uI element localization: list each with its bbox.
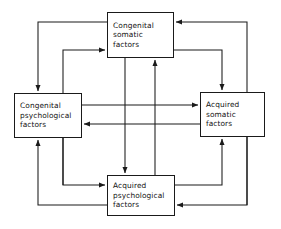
node-label-line: psychological — [20, 111, 71, 121]
edge-acquired-psychological-to-acquired-somatic — [175, 139, 222, 185]
node-label-line: psychological — [113, 191, 164, 201]
node-label-line: factors — [113, 200, 139, 210]
edge-congenital-somatic-to-acquired-somatic — [174, 50, 222, 90]
edge-congenital-somatic-to-congenital-psychological — [38, 22, 107, 91]
edge-acquired-psychological-to-congenital-psychological — [38, 140, 107, 205]
edge-congenital-psychological-to-acquired-psychological — [63, 138, 105, 185]
node-label-line: factors — [113, 40, 139, 50]
node-label-line: factors — [206, 119, 232, 129]
edge-acquired-somatic-to-acquired-psychological — [177, 137, 247, 205]
node-acquired-somatic[interactable]: Acquired somatic factors — [200, 92, 265, 137]
node-congenital-somatic[interactable]: Congenital somatic factors — [107, 12, 174, 58]
node-label-line: factors — [20, 120, 46, 130]
diagram-canvas: Congenital somatic factors Congenital ps… — [0, 0, 281, 229]
node-label-line: somatic — [113, 30, 143, 40]
node-label-line: Acquired — [113, 181, 146, 191]
node-label-line: Congenital — [113, 21, 154, 31]
node-acquired-psychological[interactable]: Acquired psychological factors — [107, 175, 175, 216]
node-label-line: Congenital — [20, 101, 61, 111]
node-label-line: Acquired — [206, 100, 239, 110]
node-congenital-psychological[interactable]: Congenital psychological factors — [14, 93, 82, 138]
node-label-line: somatic — [206, 110, 236, 120]
